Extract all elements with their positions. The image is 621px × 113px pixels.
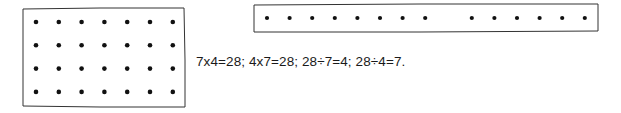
- grid-dot: [125, 66, 130, 71]
- grid-dot: [79, 20, 84, 25]
- grid-dot: [57, 20, 62, 25]
- grid-dot: [79, 43, 84, 48]
- line-dot: [333, 16, 337, 20]
- grid-dot: [102, 66, 107, 71]
- line-dot: [265, 16, 269, 20]
- line-dot: [470, 16, 474, 20]
- grid-dot: [171, 66, 176, 71]
- grid-dot: [57, 90, 62, 95]
- grid-dots: [34, 20, 175, 95]
- grid-dot: [125, 90, 130, 95]
- line-dot: [378, 16, 382, 20]
- line-dot: [310, 16, 314, 20]
- grid-dot: [102, 43, 107, 48]
- grid-dot: [34, 20, 39, 25]
- line-dot: [355, 16, 359, 20]
- grid-dot: [171, 20, 176, 25]
- grid-dot: [102, 20, 107, 25]
- line-dot: [560, 16, 564, 20]
- grid-dot: [34, 43, 39, 48]
- grid-dot: [125, 20, 130, 25]
- grid-dot: [102, 90, 107, 95]
- grid-dot: [79, 66, 84, 71]
- grid-dot: [148, 20, 153, 25]
- line-dot: [288, 16, 292, 20]
- line-dots: [265, 16, 587, 20]
- line-dot: [538, 16, 542, 20]
- grid-dot: [148, 90, 153, 95]
- grid-dot: [34, 90, 39, 95]
- line-dot: [423, 16, 427, 20]
- line-dot: [583, 16, 587, 20]
- grid-dot: [171, 90, 176, 95]
- grid-dot: [125, 43, 130, 48]
- equation-text: 7x4=28; 4x7=28; 28÷7=4; 28÷4=7.: [196, 54, 405, 69]
- line-dot: [401, 16, 405, 20]
- grid-dot: [79, 90, 84, 95]
- line-dot: [515, 16, 519, 20]
- grid-dot: [171, 43, 176, 48]
- grid-dot: [148, 43, 153, 48]
- grid-dot: [57, 43, 62, 48]
- grid-dot: [57, 66, 62, 71]
- grid-dot: [148, 66, 153, 71]
- grid-dot: [34, 66, 39, 71]
- line-dot: [492, 16, 496, 20]
